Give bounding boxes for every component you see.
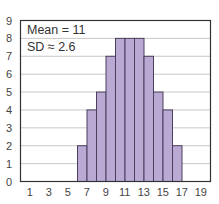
histogram-bar — [154, 92, 164, 181]
histogram-bar — [163, 110, 173, 182]
y-tick-label: 0 — [6, 176, 12, 188]
y-tick-label: 2 — [6, 140, 12, 152]
x-tick-label: 9 — [103, 186, 109, 198]
sd-label: SD ≈ 2.6 — [27, 40, 76, 54]
y-tick-label: 6 — [6, 68, 12, 80]
histogram-bar — [87, 110, 97, 182]
x-axis-ticks: 135791113151719 — [27, 186, 207, 198]
x-tick-label: 13 — [138, 186, 150, 198]
histogram-bar — [116, 38, 126, 181]
histogram-bar — [144, 56, 154, 181]
histogram-bar — [173, 146, 183, 182]
x-tick-label: 11 — [119, 186, 130, 198]
y-axis-ticks: 0123456789 — [6, 15, 12, 188]
x-tick-label: 5 — [65, 186, 71, 198]
bars — [78, 38, 183, 181]
y-tick-label: 3 — [6, 122, 12, 134]
y-tick-label: 7 — [6, 50, 12, 62]
y-tick-label: 9 — [6, 15, 12, 27]
x-tick-label: 3 — [46, 186, 52, 198]
x-tick-label: 1 — [27, 186, 33, 198]
histogram-bar — [125, 38, 135, 181]
y-tick-label: 5 — [6, 86, 12, 98]
y-tick-label: 4 — [6, 104, 12, 116]
histogram-bar — [97, 92, 107, 181]
y-tick-label: 1 — [6, 158, 12, 170]
x-tick-label: 15 — [157, 186, 169, 198]
histogram-bar — [78, 146, 88, 182]
histogram-chart: Mean = 11 SD ≈ 2.6 0123456789 1357911131… — [0, 0, 219, 204]
x-tick-label: 17 — [176, 186, 188, 198]
histogram-bar — [106, 56, 116, 181]
y-tick-label: 8 — [6, 32, 12, 44]
x-tick-label: 7 — [84, 186, 90, 198]
mean-label: Mean = 11 — [27, 23, 86, 37]
x-tick-label: 19 — [195, 186, 207, 198]
histogram-bar — [135, 38, 145, 181]
